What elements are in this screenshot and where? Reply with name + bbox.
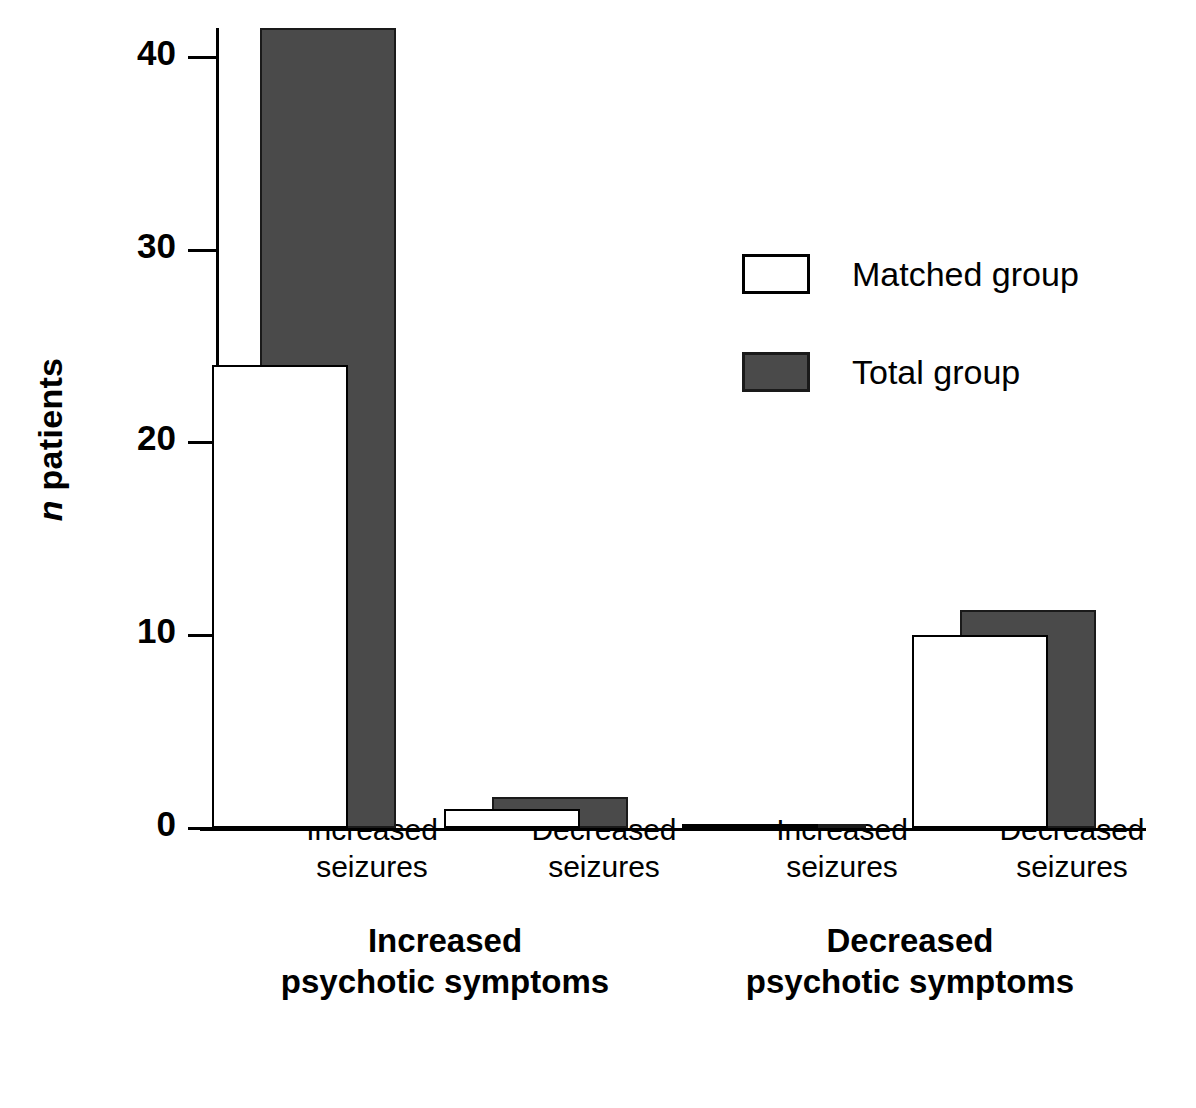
legend-swatch-matched-group-icon [742, 254, 810, 294]
x-axis-group-label-1: Increased psychotic symptoms [175, 920, 715, 1003]
legend-item-total-group: Total group [742, 344, 1079, 400]
y-axis-tick-30 [188, 249, 216, 252]
y-axis-title-rest: patients [31, 358, 69, 501]
bar-matched-group-2 [444, 809, 580, 828]
y-axis-tick-label-30: 30 [76, 226, 176, 266]
bar-matched-group-1 [212, 365, 348, 828]
legend-swatch-total-group-icon [742, 352, 810, 392]
y-axis-tick-label-0: 0 [76, 804, 176, 844]
y-axis-title-italic: n [31, 500, 69, 521]
chart-legend: Matched group Total group [742, 246, 1079, 442]
y-axis-tick-label-10: 10 [76, 611, 176, 651]
bar-matched-group-4 [912, 635, 1048, 828]
bar-matched-group-3 [682, 824, 818, 828]
x-axis-group-label-2: Decreased psychotic symptoms [640, 920, 1180, 1003]
y-axis-tick-label-20: 20 [76, 418, 176, 458]
legend-label-matched-group: Matched group [852, 255, 1079, 294]
legend-label-total-group: Total group [852, 353, 1020, 392]
bar-chart-figure: n patients 010203040 Increased seizuresD… [0, 0, 1196, 1108]
y-axis-tick-label-40: 40 [76, 33, 176, 73]
y-axis-title: n patients [31, 330, 70, 550]
legend-item-matched-group: Matched group [742, 246, 1079, 302]
y-axis-tick-40 [188, 56, 216, 59]
